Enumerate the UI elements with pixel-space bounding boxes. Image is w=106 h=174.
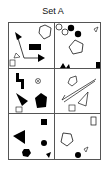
rectangle-outline	[91, 117, 96, 125]
black-hexagon	[22, 149, 31, 157]
black-triangle	[13, 130, 25, 144]
triangle-outline	[78, 92, 88, 106]
cell-row2-col1	[16, 73, 47, 112]
arrowhead-icon	[15, 32, 22, 40]
black-small-triangle	[46, 152, 51, 158]
black-circle	[41, 140, 47, 146]
arrowhead-icon	[38, 54, 45, 62]
square-outline	[10, 60, 15, 66]
cell-row1-col1	[10, 25, 51, 66]
black-square	[96, 62, 100, 68]
cell-row1-col2	[56, 24, 100, 68]
pentagon-outline	[68, 76, 77, 86]
square-outline	[69, 105, 75, 111]
black-square	[41, 119, 47, 125]
triangle-outline	[94, 27, 98, 32]
puzzle-grid	[0, 0, 106, 174]
pentagon-outline	[69, 40, 83, 54]
pentagon-outline	[39, 25, 51, 39]
cell-row3-col1	[13, 119, 51, 158]
triangle-outline	[14, 53, 20, 58]
pentagon-outline	[61, 133, 73, 146]
black-triangle	[16, 93, 28, 106]
square-outline	[16, 107, 22, 112]
black-circle	[75, 152, 81, 158]
cell-row2-col2	[62, 76, 96, 111]
black-rectangle	[29, 44, 41, 50]
triangle-outline	[84, 147, 88, 152]
star-shape	[60, 63, 70, 68]
cell-row3-col2	[61, 117, 96, 158]
bracket-shape	[16, 73, 24, 89]
black-pentagon	[35, 93, 47, 108]
